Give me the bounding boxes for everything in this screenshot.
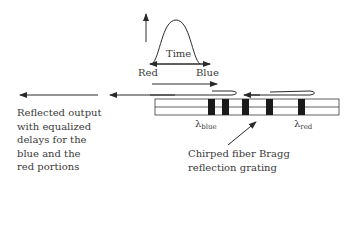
grating-element: [242, 99, 249, 115]
grating-element: [266, 99, 273, 115]
grating-description: Chirped fiber Bragg reflection grating: [188, 147, 328, 174]
lambda-subscript: blue: [201, 123, 216, 131]
output-description-line: delays for the: [17, 133, 127, 147]
red-label: Red: [138, 67, 158, 78]
grating-description-line: Chirped fiber Bragg: [188, 147, 328, 161]
output-description-line: red portions: [17, 160, 127, 174]
grating-pointer-arrow: [228, 122, 256, 145]
blue-label: Blue: [196, 67, 219, 78]
output-description-line: with equalized: [17, 120, 127, 134]
grating-element: [222, 99, 229, 115]
time-label: Time: [166, 48, 191, 59]
output-description: Reflected output with equalized delays f…: [17, 106, 127, 174]
lambda-subscript: red: [300, 123, 312, 131]
grating-description-line: reflection grating: [188, 161, 328, 175]
lambda-blue-label: λblue: [195, 118, 217, 131]
grating-element: [298, 99, 305, 115]
output-description-line: Reflected output: [17, 106, 127, 120]
grating-element: [208, 99, 215, 115]
lambda-red-label: λred: [294, 118, 312, 131]
output-description-line: blue and the: [17, 147, 127, 161]
